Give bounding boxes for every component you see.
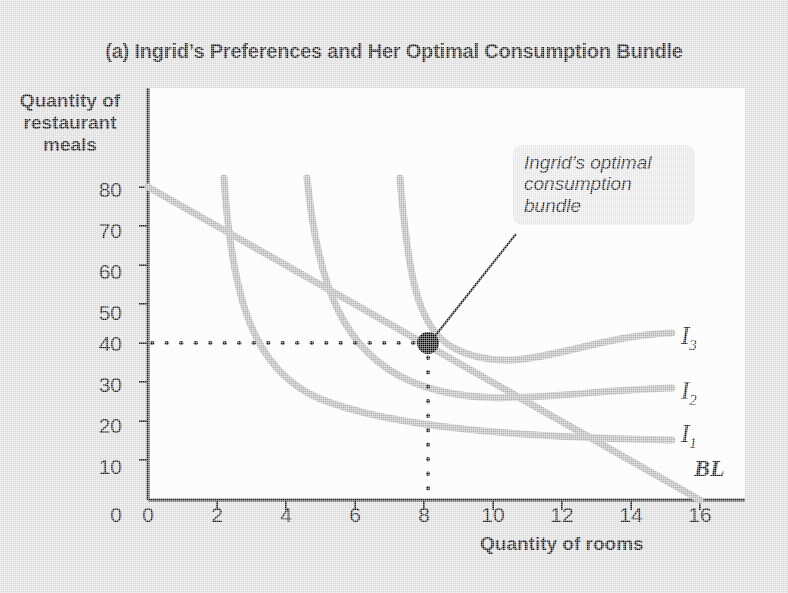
y-tick-label-80: 80 [62, 178, 122, 202]
x-tick-label-4: 4 [266, 503, 306, 527]
y-tick-label-20: 20 [62, 414, 122, 438]
curve-label-i1: I1 [681, 420, 697, 452]
callout-box: Ingrid’s optimal consumption bundle [513, 145, 695, 225]
y-axis-label-line-1: Quantity of [2, 90, 138, 112]
y-tick-label-50: 50 [62, 301, 122, 325]
x-tick-label-8: 8 [404, 503, 444, 527]
y-axis-label-line-3: meals [2, 134, 138, 156]
x-axis-label: Quantity of rooms [480, 533, 644, 555]
curve-label-i2: I2 [681, 377, 697, 409]
x-tick-label-16: 16 [680, 503, 720, 527]
x-tick-label-6: 6 [335, 503, 375, 527]
callout-leader-line [431, 234, 516, 341]
y-axis-label: Quantity of restaurant meals [2, 90, 138, 156]
x-tick-label-14: 14 [611, 503, 651, 527]
y-tick-label-10: 10 [62, 455, 122, 479]
curve-label-i1-subscript: 1 [689, 435, 697, 451]
y-tick-label-40: 40 [62, 332, 122, 356]
x-tick-label-12: 12 [542, 503, 582, 527]
x-tick-label-2: 2 [197, 503, 237, 527]
optimal-bundle-point [417, 332, 439, 354]
curve-label-i2-subscript: 2 [689, 392, 697, 408]
y-tick-label-60: 60 [62, 260, 122, 284]
curve-label-bl: BL [694, 455, 725, 482]
curve-label-i3: I3 [681, 322, 697, 354]
curve-label-i3-subscript: 3 [689, 337, 697, 353]
x-tick-label-10: 10 [473, 503, 513, 527]
y-axis-label-line-2: restaurant [2, 112, 138, 134]
figure-container: (a) Ingrid’s Preferences and Her Optimal… [0, 0, 788, 593]
y-tick-label-0: 0 [62, 503, 122, 527]
y-tick-label-30: 30 [62, 373, 122, 397]
y-tick-label-70: 70 [62, 219, 122, 243]
x-tick-label-0: 0 [128, 503, 168, 527]
